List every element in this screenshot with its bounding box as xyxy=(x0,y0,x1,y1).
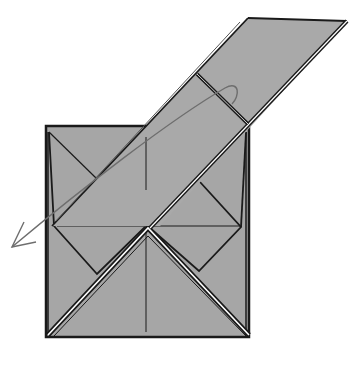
diagram-canvas xyxy=(0,0,351,368)
origami-diagram: Origami folding step xyxy=(0,0,351,368)
